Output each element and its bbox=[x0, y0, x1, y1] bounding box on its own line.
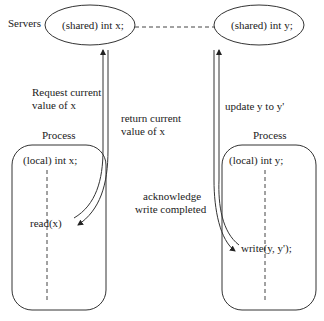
shared-x-label: (shared) int x; bbox=[62, 19, 124, 32]
servers-label: Servers bbox=[8, 17, 41, 29]
ack-label-2: write completed bbox=[135, 203, 207, 215]
request-label-1: Request current bbox=[32, 86, 101, 98]
shared-memory-diagram: Servers (shared) int x; (shared) int y; … bbox=[0, 0, 324, 321]
request-arrow bbox=[74, 50, 103, 218]
return-label-1: return current bbox=[121, 112, 181, 124]
ack-label-1: acknowledge bbox=[143, 190, 201, 202]
update-arrow bbox=[219, 50, 239, 245]
update-label: update y to y' bbox=[225, 100, 284, 112]
write-label: write(y, y'); bbox=[241, 242, 292, 255]
local-y-label: (local) int y; bbox=[229, 154, 283, 167]
process-right-box bbox=[222, 145, 316, 310]
request-label-2: value of x bbox=[32, 99, 76, 111]
read-label: read(x) bbox=[30, 217, 62, 230]
process-right-label: Process bbox=[253, 129, 287, 141]
local-x-label: (local) int x; bbox=[23, 154, 77, 167]
process-left-label: Process bbox=[42, 129, 76, 141]
acknowledge-arrow bbox=[214, 50, 235, 251]
shared-y-label: (shared) int y; bbox=[231, 19, 293, 32]
return-label-2: value of x bbox=[121, 125, 165, 137]
